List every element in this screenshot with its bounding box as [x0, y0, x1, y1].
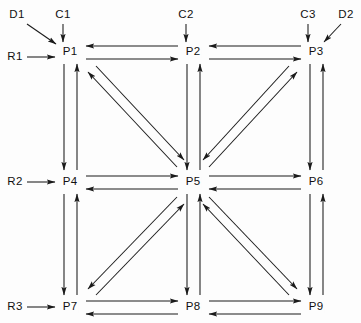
edge-p5-to-p7	[88, 197, 177, 289]
node-p4[interactable]: P4	[62, 176, 79, 188]
edge-d1-to-p1	[27, 24, 56, 44]
node-p5[interactable]: P5	[185, 176, 202, 188]
input-label-d2[interactable]: D2	[337, 9, 354, 21]
input-label-c2[interactable]: C2	[177, 9, 194, 21]
node-p8[interactable]: P8	[185, 301, 202, 313]
node-p1[interactable]: P1	[62, 46, 79, 58]
edge-p5-to-p3	[209, 72, 297, 167]
diagram-canvas: P1 P2 P3 P4 P5 P6 P7 P8 P9 C1 C2 C3 D1 D…	[0, 0, 361, 323]
input-label-d1[interactable]: D1	[8, 9, 25, 21]
edge-d2-to-p3	[324, 24, 341, 42]
edge-layer	[27, 24, 341, 314]
node-p3[interactable]: P3	[308, 46, 325, 58]
edge-p1-to-p5	[96, 66, 184, 160]
edge-p5-to-p9	[209, 197, 297, 289]
edge-p3-to-p5	[203, 66, 289, 160]
node-p2[interactable]: P2	[185, 46, 202, 58]
node-p7[interactable]: P7	[62, 301, 79, 313]
input-label-c3[interactable]: C3	[299, 9, 316, 21]
input-label-c1[interactable]: C1	[54, 9, 71, 21]
input-label-r1[interactable]: R1	[6, 51, 23, 63]
node-p6[interactable]: P6	[308, 176, 325, 188]
edge-p7-to-p5	[96, 204, 184, 295]
input-label-r3[interactable]: R3	[6, 301, 23, 313]
node-p9[interactable]: P9	[308, 301, 325, 313]
input-label-r2[interactable]: R2	[6, 176, 23, 188]
edge-p5-to-p1	[88, 72, 177, 167]
edge-p9-to-p5	[203, 204, 289, 295]
